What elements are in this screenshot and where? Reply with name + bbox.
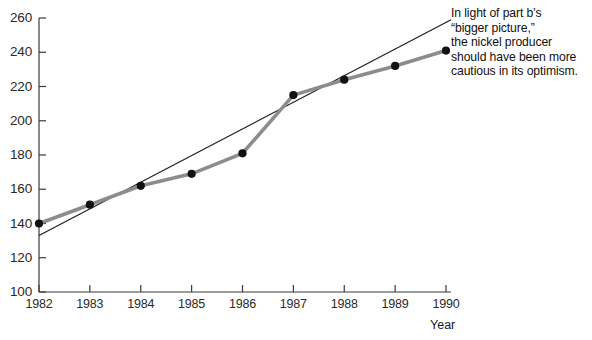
data-point-marker <box>340 76 348 84</box>
y-axis-ticks <box>39 18 46 292</box>
data-series-line <box>39 51 446 224</box>
y-tick-label: 220 <box>0 79 32 94</box>
x-tick-label: 1989 <box>371 297 419 311</box>
x-axis-title: Year <box>430 318 455 332</box>
x-tick-label: 1982 <box>15 297 63 311</box>
y-tick-label: 180 <box>0 147 32 162</box>
y-tick-label: 200 <box>0 113 32 128</box>
trend-line <box>39 20 451 236</box>
x-tick-label: 1983 <box>66 297 114 311</box>
x-tick-label: 1984 <box>117 297 165 311</box>
chart-annotation-text: In light of part b's “bigger picture,” t… <box>451 6 591 79</box>
x-tick-label: 1990 <box>422 297 470 311</box>
y-tick-label: 260 <box>0 10 32 25</box>
x-tick-label: 1986 <box>219 297 267 311</box>
data-point-marker <box>442 46 450 54</box>
y-tick-label: 160 <box>0 181 32 196</box>
y-tick-label: 240 <box>0 44 32 59</box>
x-tick-label: 1985 <box>168 297 216 311</box>
x-axis-ticks <box>39 285 446 292</box>
x-tick-label: 1988 <box>320 297 368 311</box>
x-tick-label: 1987 <box>269 297 317 311</box>
chart-container: 100120140160180200220240260 198219831984… <box>0 0 592 340</box>
data-point-marker <box>238 149 246 157</box>
data-point-marker <box>188 170 196 178</box>
y-tick-label: 120 <box>0 250 32 265</box>
data-point-marker <box>35 219 43 227</box>
y-tick-label: 140 <box>0 216 32 231</box>
data-point-marker <box>289 91 297 99</box>
data-point-marker <box>86 201 94 209</box>
data-point-marker <box>137 182 145 190</box>
data-point-marker <box>391 62 399 70</box>
